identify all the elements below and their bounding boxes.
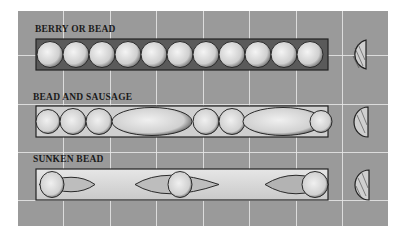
berry-profile-icon — [349, 38, 369, 72]
row-label-berry-or-bead: BERRY OR BEAD — [35, 24, 116, 34]
bead-and-sausage-molding — [35, 105, 331, 139]
grid-line — [18, 152, 388, 153]
row-label-sunken-bead: SUNKEN BEAD — [33, 154, 104, 164]
sunken-bead-molding — [35, 168, 331, 202]
berry-or-bead-molding — [35, 38, 331, 72]
row-label-bead-and-sausage: BEAD AND SAUSAGE — [33, 92, 132, 102]
illustration-panel: BERRY OR BEAD BEAD AND SAUSAGE — [18, 11, 388, 226]
sausage-profile-icon — [352, 105, 370, 139]
sunken-bead-profile-icon — [353, 168, 371, 202]
grid-line — [342, 11, 343, 226]
